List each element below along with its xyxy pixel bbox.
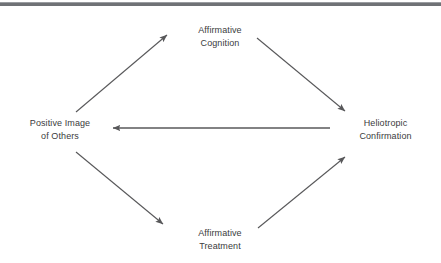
node-positive-image-of-others: Positive Image of Others (8, 117, 112, 142)
node-label-line-2: Confirmation (330, 130, 441, 143)
node-label-line-1: Affirmative (160, 24, 280, 37)
arrow-treatment-to-heliotropic (258, 157, 345, 228)
node-affirmative-cognition: Affirmative Cognition (160, 24, 280, 49)
node-heliotropic-confirmation: Heliotropic Confirmation (330, 117, 441, 142)
node-label-line-2: of Others (8, 130, 112, 143)
node-label-line-1: Heliotropic (330, 117, 441, 130)
diagram-canvas: Affirmative Cognition Heliotropic Confir… (0, 0, 441, 263)
node-label-line-2: Cognition (160, 37, 280, 50)
arrow-positive-to-cognition (76, 35, 167, 112)
arrow-positive-to-treatment (76, 152, 163, 224)
node-label-line-2: Treatment (160, 240, 280, 253)
node-affirmative-treatment: Affirmative Treatment (160, 227, 280, 252)
node-label-line-1: Affirmative (160, 227, 280, 240)
node-label-line-1: Positive Image (8, 117, 112, 130)
